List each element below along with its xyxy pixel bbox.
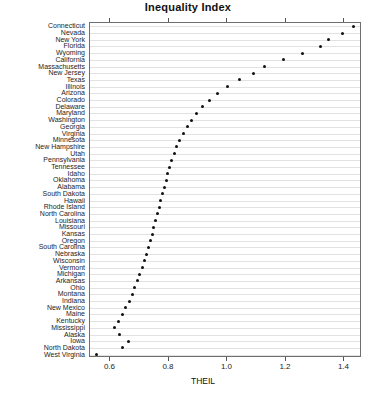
gridline (90, 254, 360, 255)
x-axis-tick (109, 357, 110, 361)
gridline (90, 274, 360, 275)
gridline (90, 308, 360, 309)
x-axis-tick-label: 0.8 (162, 362, 173, 371)
gridline (90, 241, 360, 242)
x-axis-tick-label: 1.4 (338, 362, 349, 371)
data-point (165, 179, 168, 182)
gridline (90, 160, 360, 161)
data-point (182, 132, 185, 135)
data-point (158, 206, 161, 209)
gridline (90, 33, 360, 34)
gridline (90, 67, 360, 68)
data-point (145, 253, 148, 256)
gridline (90, 261, 360, 262)
gridline (90, 93, 360, 94)
gridline (90, 201, 360, 202)
x-axis-tick-label: 0.6 (104, 362, 115, 371)
gridline (90, 288, 360, 289)
x-axis-tick-top (285, 18, 286, 22)
gridline (90, 321, 360, 322)
data-point (170, 159, 173, 162)
plot-area (89, 22, 361, 357)
x-axis-tick (285, 357, 286, 361)
x-axis-tick (343, 357, 344, 361)
data-point (352, 25, 355, 28)
data-point (118, 333, 121, 336)
data-point (208, 99, 211, 102)
data-point (216, 92, 219, 95)
gridline (90, 140, 360, 141)
gridline (90, 147, 360, 148)
data-point (131, 293, 134, 296)
gridline (90, 120, 360, 121)
gridline (90, 127, 360, 128)
data-point (152, 226, 155, 229)
data-point (128, 300, 131, 303)
chart-root: Inequality Index ConnecticutNevadaNew Yo… (0, 0, 376, 393)
gridline (90, 247, 360, 248)
data-point (121, 313, 124, 316)
data-point (301, 52, 304, 55)
gridline (90, 227, 360, 228)
gridline (90, 348, 360, 349)
gridline (90, 214, 360, 215)
gridline (90, 73, 360, 74)
gridline (90, 40, 360, 41)
gridline (90, 180, 360, 181)
chart-title: Inequality Index (0, 1, 376, 13)
gridline (90, 53, 360, 54)
gridline (90, 154, 360, 155)
gridline (90, 194, 360, 195)
gridline (90, 234, 360, 235)
x-axis-tick (168, 357, 169, 361)
gridline (90, 113, 360, 114)
data-point (168, 166, 171, 169)
x-axis-tick (226, 357, 227, 361)
data-point (190, 119, 193, 122)
x-axis-tick-top (343, 18, 344, 22)
gridline (90, 341, 360, 342)
gridline (90, 87, 360, 88)
x-axis-title: THEIL (0, 376, 376, 386)
x-axis-tick-label: 1.0 (221, 362, 232, 371)
gridline (90, 268, 360, 269)
gridline (90, 100, 360, 101)
gridline (90, 207, 360, 208)
gridline (90, 60, 360, 61)
data-point (147, 246, 150, 249)
data-point (173, 152, 176, 155)
y-axis-label: West Virginia (44, 350, 85, 357)
data-point (127, 340, 130, 343)
gridline (90, 107, 360, 108)
data-point (178, 139, 181, 142)
data-point (141, 266, 144, 269)
data-point (151, 233, 154, 236)
x-axis-tick-top (109, 18, 110, 22)
data-point (195, 112, 198, 115)
x-axis-tick-top (168, 18, 169, 22)
gridline (90, 221, 360, 222)
gridline (90, 314, 360, 315)
data-point (163, 186, 166, 189)
data-point (117, 320, 120, 323)
gridline (90, 134, 360, 135)
gridline (90, 281, 360, 282)
gridline (90, 80, 360, 81)
gridline (90, 328, 360, 329)
gridline (90, 174, 360, 175)
gridline (90, 187, 360, 188)
data-point (252, 72, 255, 75)
data-point (138, 273, 141, 276)
gridline (90, 355, 360, 356)
gridline (90, 26, 360, 27)
x-axis-tick-top (226, 18, 227, 22)
x-axis-tick-label: 1.2 (279, 362, 290, 371)
gridline (90, 335, 360, 336)
data-point (319, 45, 322, 48)
y-axis-category-labels: ConnecticutNevadaNew YorkFloridaWyomingC… (0, 22, 87, 357)
gridline (90, 167, 360, 168)
